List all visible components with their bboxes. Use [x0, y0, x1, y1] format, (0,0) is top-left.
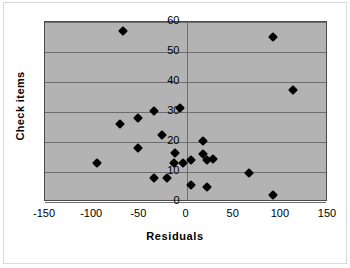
gridline-y-50	[45, 52, 326, 53]
data-point	[198, 136, 208, 146]
gridline-y-0	[45, 202, 326, 203]
y-axis-tick-label: 10	[154, 165, 180, 176]
data-point	[170, 148, 180, 158]
gridline-y-40	[45, 82, 326, 83]
scatter-chart-figure: Check items Residuals 0102030405060-150-…	[0, 0, 350, 268]
data-point	[92, 158, 102, 168]
gridline-y-20	[45, 142, 326, 143]
data-point	[202, 182, 212, 192]
y-axis-line	[187, 22, 188, 200]
data-point	[244, 168, 254, 178]
data-point	[133, 113, 143, 123]
gridline-y-30	[45, 112, 326, 113]
gridline-y-60	[45, 22, 326, 23]
y-axis-tick-label: 50	[154, 45, 180, 56]
x-axis-tick-label: -150	[19, 208, 69, 219]
data-point	[118, 26, 128, 36]
data-point	[268, 32, 278, 42]
x-axis-tick-label: 0	[161, 208, 211, 219]
y-axis-tick-label: 30	[154, 105, 180, 116]
x-axis-tick-label: 50	[208, 208, 258, 219]
y-axis-title: Check items	[14, 46, 26, 166]
y-axis-tick-label: 60	[154, 15, 180, 26]
x-axis-tick-label: -100	[66, 208, 116, 219]
data-point	[115, 119, 125, 129]
y-axis-tick-label: 0	[154, 195, 180, 206]
x-axis-tick-label: 100	[255, 208, 305, 219]
y-axis-tick-label: 20	[154, 135, 180, 146]
gridline-y-10	[45, 172, 326, 173]
data-point	[288, 85, 298, 95]
x-axis-tick-label: -50	[113, 208, 163, 219]
data-point	[133, 143, 143, 153]
data-point	[268, 190, 278, 200]
plot-area	[44, 21, 327, 201]
x-axis-tick-label: 150	[302, 208, 350, 219]
x-axis-title: Residuals	[0, 230, 350, 242]
y-axis-tick-label: 40	[154, 75, 180, 86]
